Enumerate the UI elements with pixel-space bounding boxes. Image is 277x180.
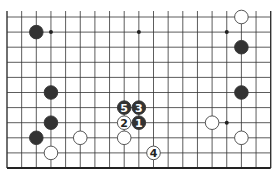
- numbered-stone-1: 1: [132, 116, 146, 130]
- white-stone: [235, 10, 249, 24]
- white-stone: [117, 131, 131, 145]
- go-board: 12345: [0, 0, 277, 180]
- star-point-icon: [49, 30, 53, 34]
- star-point-icon: [225, 30, 229, 34]
- move-number: 3: [135, 102, 143, 115]
- black-stone: [235, 40, 249, 54]
- move-number: 4: [150, 147, 158, 160]
- white-stone: [205, 116, 219, 130]
- black-stone: [235, 86, 249, 100]
- black-stone: [30, 25, 44, 39]
- numbered-stone-2: 2: [117, 116, 131, 130]
- star-point-icon: [137, 30, 141, 34]
- numbered-stone-3: 3: [132, 101, 146, 115]
- white-stone: [73, 131, 87, 145]
- white-stone: [235, 131, 249, 145]
- move-number: 2: [120, 117, 128, 130]
- move-number: 1: [135, 117, 143, 130]
- black-stone: [30, 131, 44, 145]
- white-stone: [44, 146, 58, 160]
- move-number: 5: [120, 102, 128, 115]
- black-stone: [44, 86, 58, 100]
- numbered-stone-4: 4: [147, 146, 161, 160]
- numbered-stone-5: 5: [117, 101, 131, 115]
- black-stone: [44, 116, 58, 130]
- star-point-icon: [225, 121, 229, 125]
